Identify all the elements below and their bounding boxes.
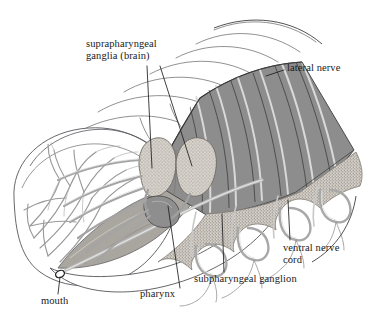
- dorsal-outline-sweep: [214, 20, 322, 44]
- label-mouth: mouth: [41, 295, 68, 307]
- label-lateral-nerve: lateral nerve: [287, 62, 340, 74]
- label-ventral-nerve-cord: ventral nerve cord: [283, 242, 339, 265]
- label-pharynx: pharynx: [140, 288, 175, 300]
- earthworm-nervous-system-illustration: [0, 0, 372, 323]
- label-suprapharyngeal-ganglia: suprapharyngeal ganglia (brain): [86, 38, 157, 61]
- label-subpharyngeal-ganglion: subpharyngeal ganglion: [194, 273, 297, 285]
- anatomical-figure: suprapharyngeal ganglia (brain) lateral …: [0, 0, 372, 323]
